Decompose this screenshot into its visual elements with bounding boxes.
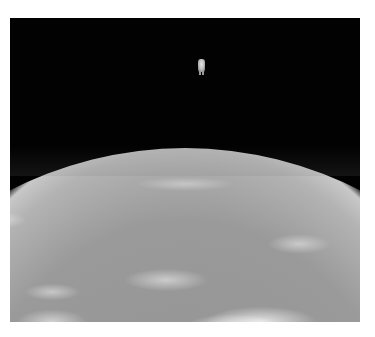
astronaut (197, 57, 206, 75)
earth-surface (10, 148, 360, 322)
photograph (10, 18, 360, 322)
astronaut-leg (199, 70, 201, 75)
astronaut-leg (202, 70, 204, 75)
